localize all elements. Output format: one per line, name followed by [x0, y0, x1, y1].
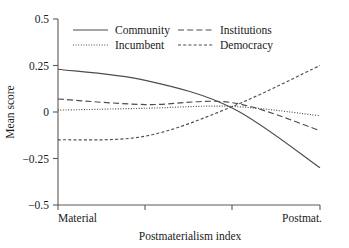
y-tick-label-3: −0.25 — [22, 153, 49, 165]
legend-label-community: Community — [115, 24, 170, 37]
x-tick-label-postmat: Postmat. — [282, 212, 322, 224]
legend: Community Institutions Incumbent Democra… — [73, 24, 273, 52]
legend-label-institutions: Institutions — [220, 24, 272, 36]
x-axis: Material Postmat. Postmaterialism index — [58, 205, 322, 242]
y-tick-label-2: 0 — [43, 106, 49, 118]
x-tick-label-material: Material — [58, 212, 97, 224]
series-line-community — [58, 69, 320, 168]
series-line-incumbent — [58, 106, 320, 116]
series-line-institutions — [58, 99, 320, 131]
y-tick-label-0: 0.5 — [35, 13, 50, 25]
x-axis-title: Postmaterialism index — [139, 230, 242, 242]
y-tick-label-4: −0.5 — [28, 199, 49, 211]
y-axis: 0.5 0.25 0 −0.25 −0.5 Mean score — [4, 13, 58, 211]
y-axis-title: Mean score — [4, 85, 16, 138]
plot-series-group — [58, 66, 320, 168]
legend-label-democracy: Democracy — [220, 39, 273, 52]
legend-label-incumbent: Incumbent — [115, 39, 165, 51]
chart-figure: 0.5 0.25 0 −0.25 −0.5 Mean score Materia… — [0, 0, 349, 248]
y-tick-label-1: 0.25 — [29, 60, 49, 72]
